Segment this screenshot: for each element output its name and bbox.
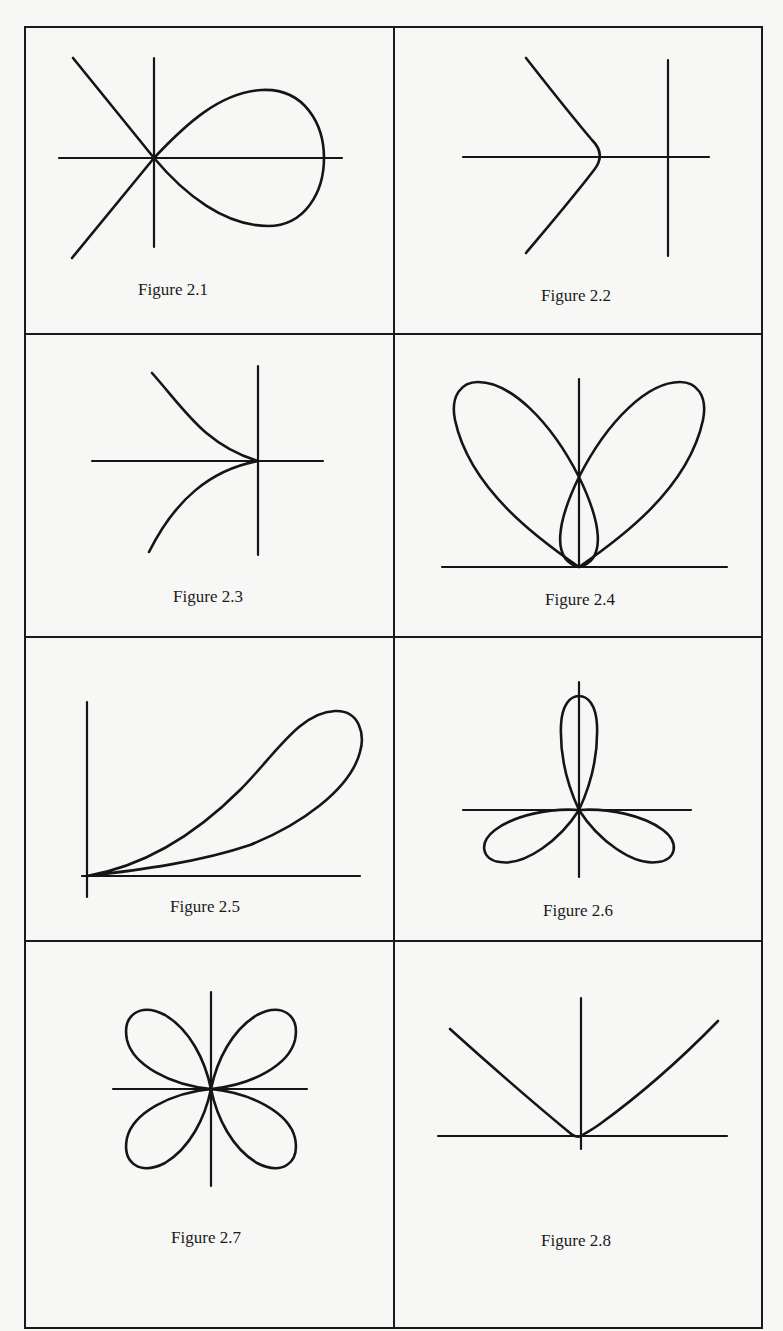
figure-2-3-plot — [92, 366, 323, 555]
petal-upper-left — [126, 1010, 211, 1089]
figure-2-6-plot — [463, 682, 691, 877]
figure-2-4-plot — [442, 379, 727, 567]
left-branch — [450, 1029, 581, 1137]
cusp-upper-branch — [152, 373, 258, 461]
branch-curve — [526, 58, 600, 253]
figures-canvas — [0, 0, 783, 1331]
document-page: Figure 2.1 Figure 2.2 Figure 2.3 Figure … — [0, 0, 783, 1331]
cusp-lower-branch — [149, 461, 258, 552]
figure-2-7-plot — [113, 992, 307, 1186]
figure-caption: Figure 2.3 — [173, 587, 243, 607]
teardrop-loop — [87, 711, 362, 876]
petal-upper-right — [211, 1010, 296, 1089]
left-petal — [484, 810, 579, 863]
left-petal — [454, 382, 598, 567]
tangent-line-lower — [72, 158, 154, 258]
figure-caption: Figure 2.7 — [171, 1228, 241, 1248]
petal-lower-left — [126, 1089, 211, 1168]
figure-caption: Figure 2.5 — [170, 897, 240, 917]
figure-caption: Figure 2.4 — [545, 590, 615, 610]
figure-2-5-plot — [82, 702, 362, 897]
right-petal — [579, 810, 674, 863]
figure-caption: Figure 2.6 — [543, 901, 613, 921]
figure-caption: Figure 2.1 — [138, 280, 208, 300]
figure-caption: Figure 2.8 — [541, 1231, 611, 1251]
right-petal — [560, 382, 704, 567]
figure-2-2-plot — [463, 58, 709, 256]
figure-caption: Figure 2.2 — [541, 286, 611, 306]
figure-2-1-plot — [59, 58, 342, 258]
tangent-line-upper — [73, 58, 154, 158]
figure-2-8-plot — [438, 998, 727, 1149]
petal-lower-right — [211, 1089, 296, 1168]
right-branch — [581, 1021, 718, 1136]
